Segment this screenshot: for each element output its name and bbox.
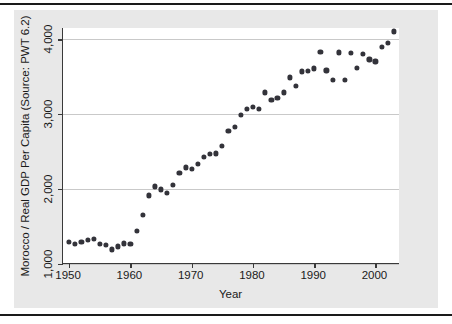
x-tick-label: 1970 — [178, 269, 204, 281]
data-point — [385, 40, 390, 45]
data-point — [220, 143, 225, 148]
data-point — [146, 193, 151, 198]
x-tick-mark — [130, 263, 131, 268]
data-point — [287, 75, 292, 80]
x-tick-label: 1990 — [300, 269, 326, 281]
plot-region — [62, 28, 399, 264]
data-point — [269, 98, 274, 103]
data-point — [67, 239, 72, 244]
x-tick-mark — [69, 263, 70, 268]
x-tick-label: 2000 — [362, 269, 388, 281]
data-point — [109, 247, 114, 252]
data-point — [361, 52, 366, 57]
data-point — [330, 77, 335, 82]
data-point — [336, 50, 341, 55]
data-point — [207, 152, 212, 157]
y-tick-mark — [58, 189, 63, 190]
data-point — [189, 167, 194, 172]
x-tick-mark — [375, 263, 376, 268]
data-point — [373, 59, 378, 64]
data-point — [116, 244, 121, 249]
chart-figure: Morocco / Real GDP Per Capita (Source: P… — [0, 0, 452, 324]
data-point — [97, 241, 102, 246]
data-point — [214, 151, 219, 156]
data-point — [165, 191, 170, 196]
x-tick-mark — [314, 263, 315, 268]
data-point — [391, 29, 396, 34]
data-point — [318, 49, 323, 54]
data-point — [195, 161, 200, 166]
data-point — [281, 90, 286, 95]
x-tick-mark — [253, 263, 254, 268]
data-point — [183, 165, 188, 170]
data-point — [355, 65, 360, 70]
data-point — [134, 228, 139, 233]
data-point — [128, 241, 133, 246]
data-point — [79, 240, 84, 245]
data-point — [263, 90, 268, 95]
data-point — [158, 187, 163, 192]
data-point — [250, 104, 255, 109]
data-point — [342, 77, 347, 82]
data-point — [256, 107, 261, 112]
data-point — [171, 182, 176, 187]
data-point — [367, 57, 372, 62]
y-tick-mark — [58, 39, 63, 40]
y-tick-mark — [58, 114, 63, 115]
data-point — [238, 113, 243, 118]
data-point — [379, 45, 384, 50]
data-point — [177, 170, 182, 175]
x-tick-label: 1960 — [117, 269, 143, 281]
data-point — [140, 212, 145, 217]
data-point — [226, 128, 231, 133]
y-tick-mark — [58, 264, 63, 265]
data-point — [348, 50, 353, 55]
data-point — [299, 69, 304, 74]
data-point — [312, 66, 317, 71]
data-point — [293, 83, 298, 88]
data-point — [275, 95, 280, 100]
data-point — [201, 154, 206, 159]
x-tick-label: 1980 — [239, 269, 265, 281]
data-point — [122, 241, 127, 246]
data-point — [232, 124, 237, 129]
gridline-y — [63, 264, 399, 265]
data-point — [103, 242, 108, 247]
data-point — [73, 241, 78, 246]
x-tick-mark — [192, 263, 193, 268]
data-point — [85, 237, 90, 242]
gridline-y — [63, 39, 399, 40]
data-point — [91, 237, 96, 242]
data-point — [244, 106, 249, 111]
x-tick-label: 1950 — [55, 269, 81, 281]
gridline-y — [63, 189, 399, 190]
data-point — [305, 68, 310, 73]
data-point — [324, 68, 329, 73]
x-axis-title: Year — [62, 288, 399, 300]
gridline-y — [63, 114, 399, 115]
